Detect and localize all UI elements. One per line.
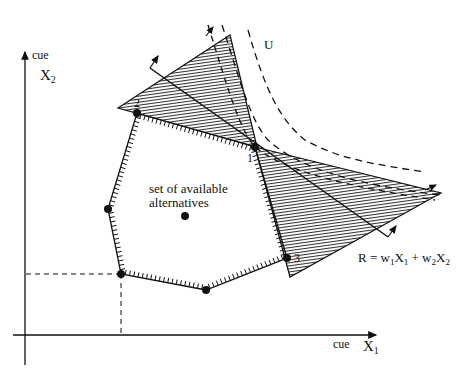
region-label-line2: alternatives <box>149 195 209 210</box>
point-3 <box>283 254 291 262</box>
x-axis-cue-label: cue <box>333 337 350 351</box>
upper-dominance-cone <box>118 35 257 147</box>
y-axis-label: X2 <box>40 67 56 85</box>
point-1 <box>251 143 259 151</box>
point-2-label: 2 <box>134 96 140 110</box>
point-1-label: 1 <box>247 151 253 165</box>
diagram-canvas: cue X2 cue X1 set of available alternati… <box>0 0 457 370</box>
point-2 <box>133 109 141 117</box>
projection-lines <box>25 274 121 335</box>
region-label-line1: set of available <box>149 181 228 196</box>
rule-formula: R = w1X1 + w2X2 <box>358 250 450 267</box>
x-axis-label: X1 <box>363 338 379 356</box>
curve-U-label: U <box>264 37 274 52</box>
point-left <box>104 205 112 213</box>
point-interior <box>181 212 189 220</box>
y-axis-cue-label: cue <box>32 48 49 62</box>
point-3-label: 3 <box>294 251 300 265</box>
point-bottom-left <box>117 270 125 278</box>
point-bottom <box>202 286 210 294</box>
